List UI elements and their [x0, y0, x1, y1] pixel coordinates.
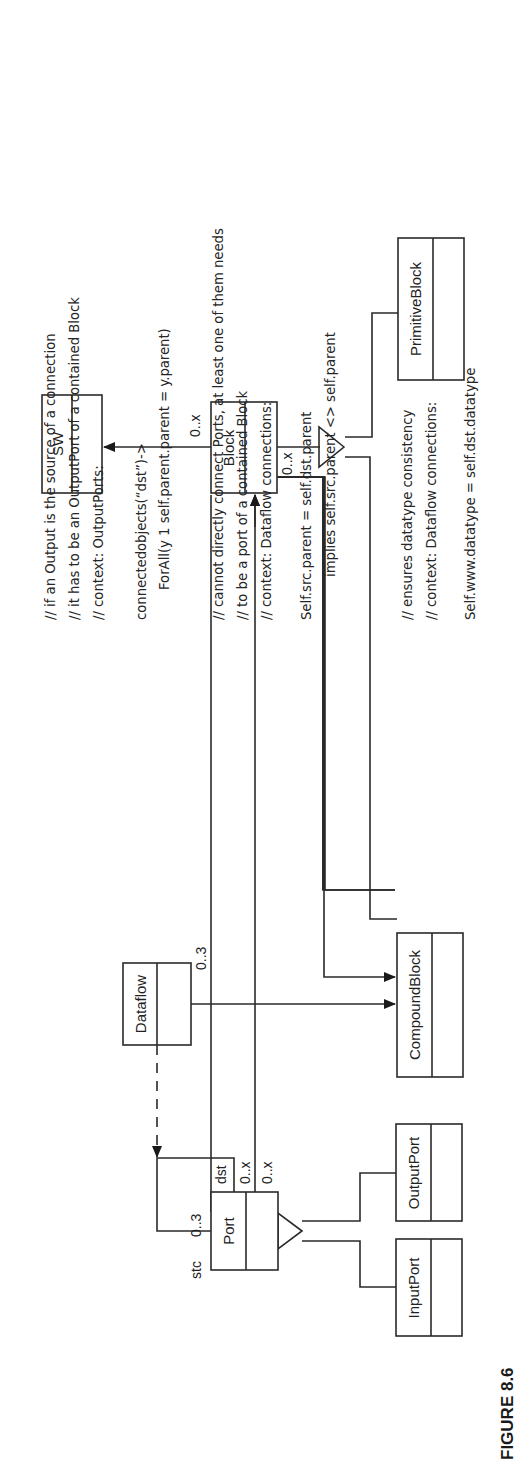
role-dst: dst [213, 1165, 229, 1184]
class-compound-block-name: CompoundBlock [406, 949, 423, 1060]
class-dataflow: Dataflow [123, 963, 191, 1045]
figure-caption-label: FIGURE 8.6 [498, 1367, 517, 1460]
constraint-1-code-2: ForAll(y 1 self.parent.parent = y.parent… [157, 328, 172, 590]
figure-8-6-diagram: SW Block PrimitiveBlock Dataflow Compoun… [0, 0, 517, 1467]
class-primitive-block: PrimitiveBlock [398, 238, 464, 380]
class-output-port: OutputPort [396, 1124, 462, 1221]
class-input-port-name: InputPort [405, 1257, 422, 1319]
constraint-3-comment-2: // context: Dataflow connections: [424, 402, 439, 620]
class-compound-block: CompoundBlock [397, 933, 463, 1077]
class-dataflow-name: Dataflow [132, 975, 149, 1034]
role-src: stc [188, 1261, 204, 1279]
class-input-port: InputPort [396, 1239, 462, 1336]
constraint-2-comment-2: // to be a port of a contained Block [235, 390, 250, 620]
constraint-2-comment-3: // context: Dataflow connections: [259, 402, 274, 620]
uml-metamodel-diagram: SW Block PrimitiveBlock Dataflow Compoun… [0, 0, 517, 1467]
constraint-2-comment-1: // cannot directly connect Ports, at lea… [211, 228, 226, 620]
port-generalization-triangle [278, 1213, 302, 1249]
multiplicity-block-sw: 0..x [187, 414, 203, 437]
constraint-datatype-consistency: // ensures datatype consistency // conte… [400, 368, 478, 620]
multiplicity-dataflow-compound: 0..3 [193, 946, 209, 970]
multiplicity-port-block: 0..x [259, 1161, 275, 1184]
multiplicity-port-dst: 0..x [237, 1161, 253, 1184]
constraint-1-comment-1: // if an Output is the source of a conne… [43, 333, 58, 620]
output-port-generalization [302, 1173, 396, 1221]
class-port: Port [211, 1192, 278, 1270]
constraint-2-code-1: Self.src.parent = self.dst.parent [299, 412, 314, 620]
multiplicity-port-src: 0..3 [188, 1213, 204, 1237]
multiplicity-block-compound: 0..x [279, 452, 295, 475]
constraint-1-comment-3: // context: OutputPorts: [91, 465, 106, 620]
class-output-port-name: OutputPort [405, 1136, 422, 1209]
input-port-generalization [302, 1241, 396, 1287]
primitive-block-generalization [345, 313, 398, 437]
constraint-1-comment-2: // it has to be an OutputPort of a conta… [67, 297, 82, 620]
compound-block-generalization [345, 457, 397, 919]
constraint-2-code-2: implies self.src.parent <> self.parent [323, 332, 338, 577]
constraint-3-code-1: Self.www.datatype = self.dst.datatype [463, 368, 478, 620]
constraint-1-code-1: connectedobjects(“dst”)-> [134, 443, 149, 620]
constraint-3-comment-1: // ensures datatype consistency [400, 410, 415, 620]
class-primitive-block-name: PrimitiveBlock [407, 261, 424, 356]
class-port-name: Port [220, 1216, 237, 1244]
